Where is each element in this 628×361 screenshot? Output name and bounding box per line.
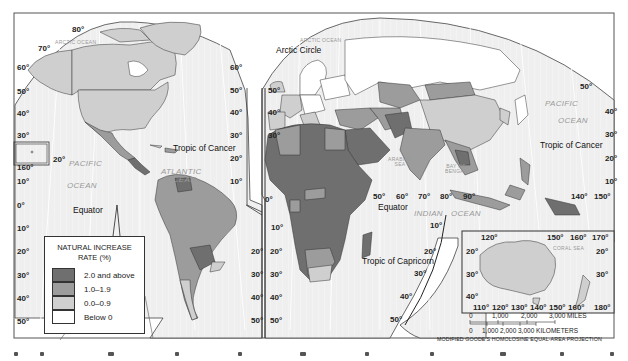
lon-label: 140° bbox=[571, 193, 588, 201]
inset-lon-label: 120° bbox=[481, 234, 498, 242]
cutoff-text-fragment bbox=[14, 352, 18, 356]
lat-label: 50° bbox=[390, 316, 402, 324]
legend: NATURAL INCREASE RATE (%) 2.0 and above … bbox=[44, 236, 145, 334]
scale-miles-1000: 1,000 bbox=[492, 313, 508, 320]
lon-label: 60° bbox=[396, 193, 408, 201]
lon-label: 150° bbox=[594, 193, 611, 201]
lat-label: 30° bbox=[17, 132, 29, 140]
cutoff-text-fragment bbox=[300, 352, 306, 356]
lon-label: 80° bbox=[440, 193, 452, 201]
inset-lon-label-bottom: 130° bbox=[511, 304, 528, 312]
legend-label: 0.0–0.9 bbox=[84, 300, 111, 308]
lat-label: 20° bbox=[424, 248, 436, 256]
cutoff-text-fragment bbox=[500, 352, 506, 356]
cutoff-text-fragment bbox=[40, 352, 44, 356]
lat-label: 50° bbox=[17, 88, 29, 96]
legend-label: 1.0–1.9 bbox=[84, 286, 111, 294]
scale-km-1000: 1,000 bbox=[482, 328, 498, 335]
atlantic-ocean-label: ATLANTICOCEAN bbox=[161, 168, 201, 184]
lat-label-70: 70° bbox=[38, 45, 50, 53]
lat-label: 20° bbox=[270, 248, 282, 256]
inset-lon-label: 150° bbox=[547, 234, 564, 242]
scale-miles-0: 0 bbox=[469, 313, 473, 320]
lat-label: 40° bbox=[251, 294, 263, 302]
lat-label: 50° bbox=[580, 83, 592, 91]
pacific-ocean-label-left: PACIFIC bbox=[69, 160, 102, 168]
lat-label-80: 80° bbox=[72, 26, 84, 34]
scale-miles-3000: 3,000 MILES bbox=[549, 313, 587, 320]
indian-ocean-label-2: OCEAN bbox=[451, 210, 481, 218]
lat-label: 30° bbox=[268, 132, 280, 140]
lat-label: 40° bbox=[230, 109, 242, 117]
lat-label: 20° bbox=[605, 155, 617, 163]
hawaii-lon-label: 160° bbox=[17, 164, 34, 172]
lat-label: 30° bbox=[605, 131, 617, 139]
arabian-sea-label: ARABIANSEA bbox=[388, 157, 412, 167]
arctic-ocean-label-left: ARCTIC OCEAN bbox=[55, 40, 96, 45]
inset-lat-label: 20° bbox=[596, 248, 608, 256]
inset-lat-label: 30° bbox=[466, 271, 478, 279]
lat-label: 10° bbox=[17, 225, 29, 233]
lat-label-10s-indian: 10° bbox=[430, 222, 442, 230]
lat-label-10s: 10° bbox=[271, 224, 283, 232]
lat-label: 10° bbox=[17, 178, 29, 186]
cutoff-text-fragment bbox=[430, 352, 434, 356]
tropic-of-cancer-label-left: Tropic of Cancer bbox=[173, 144, 236, 153]
lat-label: 50° bbox=[270, 317, 282, 325]
lat-label: 40° bbox=[268, 109, 280, 117]
tropic-of-capricorn-label: Tropic of Capricorn bbox=[362, 257, 434, 266]
lat-label: 40° bbox=[17, 110, 29, 118]
lat-label: 40° bbox=[270, 294, 282, 302]
lat-label: 50° bbox=[230, 87, 242, 95]
pacific-ocean-label-right-2: OCEAN bbox=[558, 117, 588, 125]
cutoff-text-fragment bbox=[365, 352, 369, 356]
inset-lon-label: 170° bbox=[592, 234, 609, 242]
cutoff-text-fragment bbox=[238, 352, 242, 356]
scale-km-0: 0 bbox=[469, 328, 473, 335]
lon-label: 50° bbox=[373, 193, 385, 201]
inset-lon-label-bottom: 120° bbox=[492, 304, 509, 312]
lat-label: 30° bbox=[17, 272, 29, 280]
cutoff-text-fragment bbox=[108, 352, 114, 356]
cutoff-text-fragment bbox=[610, 352, 614, 356]
cutoff-text-fragment bbox=[560, 352, 564, 356]
legend-swatch-2-0-above bbox=[52, 268, 75, 282]
scale-km-3000: 3,000 KILOMETERS bbox=[518, 328, 578, 335]
lat-label: 10° bbox=[230, 178, 242, 186]
bay-of-bengal-label: BAY OFBENGAL bbox=[445, 164, 467, 174]
lat-label: 10° bbox=[605, 178, 617, 186]
legend-title-line2: RATE (%) bbox=[45, 254, 144, 262]
arctic-circle-label: Arctic Circle bbox=[276, 46, 321, 55]
lat-label: 30° bbox=[270, 271, 282, 279]
legend-label: 2.0 and above bbox=[84, 272, 135, 280]
inset-lat-label: 30° bbox=[596, 271, 608, 279]
legend-title-line1: NATURAL INCREASE bbox=[45, 244, 144, 252]
equator-label-right: Equator bbox=[378, 203, 408, 212]
cutoff-text-fragment bbox=[175, 352, 179, 356]
lat-label: 50° bbox=[251, 317, 263, 325]
inset-lat-label: 40° bbox=[466, 293, 478, 301]
inset-lat-label: 20° bbox=[466, 248, 478, 256]
legend-swatch-1-0-1-9 bbox=[52, 282, 75, 296]
hawaii-lat-label: 20° bbox=[53, 156, 65, 164]
lon-label: 90° bbox=[463, 193, 475, 201]
arctic-ocean-label-right: ARCTIC OCEAN bbox=[300, 38, 341, 43]
pacific-ocean-label-right: PACIFIC bbox=[545, 100, 578, 108]
lat-label: 60° bbox=[17, 64, 29, 72]
lat-label: 20° bbox=[251, 248, 263, 256]
scale-miles-2000: 2,000 bbox=[521, 313, 537, 320]
inset-lon-label-bottom: 150° bbox=[549, 304, 566, 312]
lat-label: 40° bbox=[605, 108, 617, 116]
pacific-ocean-label-left-2: OCEAN bbox=[67, 182, 97, 190]
indian-ocean-label: INDIAN bbox=[414, 210, 443, 218]
legend-swatch-below-0 bbox=[52, 310, 75, 324]
lat-label: 40° bbox=[17, 295, 29, 303]
inset-lon-label-bottom: 180° bbox=[594, 304, 611, 312]
lat-label: 0° bbox=[17, 202, 25, 210]
coral-sea-label: CORAL SEA bbox=[553, 246, 584, 251]
lat-label: 30° bbox=[251, 271, 263, 279]
projection-label: MODIFIED GOODE'S HOMOLOSINE EQUAL-AREA P… bbox=[437, 337, 602, 342]
lon-label-0: 0° bbox=[265, 196, 273, 204]
inset-lon-label-bottom: 160° bbox=[568, 304, 585, 312]
lon-label: 70° bbox=[418, 193, 430, 201]
